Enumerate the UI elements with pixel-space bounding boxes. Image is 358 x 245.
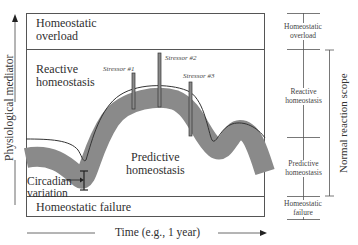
zone-overload-label: Homeostatic overload (36, 17, 97, 43)
stressor-1-bar (132, 73, 135, 109)
stressor-3-label: Stressor #3 (183, 72, 214, 80)
y-axis-label: Physiological mediator (3, 55, 15, 161)
scale-predictive-label: Predictive homeostasis (282, 160, 325, 177)
circadian-label: Circadian variation (27, 175, 72, 199)
stressor-2-label: Stressor #2 (165, 54, 196, 62)
zone-reactive-label: Reactive homeostasis (36, 63, 95, 89)
scale-overload-label: Homeostatic overload (283, 23, 323, 40)
zone-failure-label: Homeostatic failure (36, 201, 131, 214)
scale-reactive-label: Reactive homeostasis (282, 88, 325, 105)
stressor-1-label: Stressor #1 (103, 65, 134, 73)
zone-predictive-label: Predictive homeostasis (126, 151, 185, 177)
x-axis-label: Time (e.g., 1 year) (115, 226, 200, 239)
stressor-2-bar (158, 53, 161, 107)
scope-label: Normal reaction scope (337, 73, 349, 173)
stressor-3-bar (189, 82, 192, 136)
scale-failure-label: Homeostatic failure (283, 200, 323, 217)
